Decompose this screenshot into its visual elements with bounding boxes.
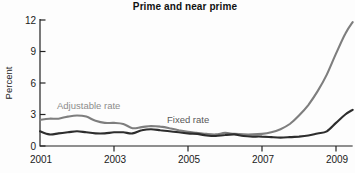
x-tick-label: 2001 — [30, 154, 53, 165]
chart-figure: Prime and near prime Percent 03691220012… — [0, 0, 355, 173]
x-tick-label: 2009 — [326, 154, 349, 165]
y-tick-label: 6 — [30, 78, 36, 89]
axes — [40, 19, 353, 146]
fixed-rate-series-label: Fixed rate — [167, 114, 209, 125]
y-tick-label: 9 — [30, 46, 36, 57]
line-chart: 03691220012003200520072009 — [0, 0, 355, 173]
adjustable-rate-series-label: Adjustable rate — [57, 100, 120, 111]
y-tick-label: 12 — [25, 15, 37, 26]
x-tick-label: 2007 — [252, 154, 275, 165]
y-tick-label: 0 — [30, 141, 36, 152]
x-tick-label: 2005 — [178, 154, 201, 165]
y-tick-label: 3 — [30, 109, 36, 120]
x-tick-label: 2003 — [104, 154, 127, 165]
